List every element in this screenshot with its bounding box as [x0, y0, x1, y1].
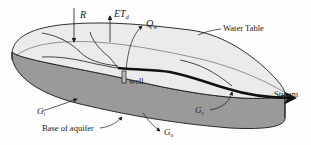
- well-icon: [122, 71, 126, 83]
- recharge-label: R: [79, 9, 86, 20]
- base-of-aquifer-label: Base of aquifer: [42, 123, 94, 133]
- aquifer-diagram: R ETd Qw Water Table well Stream Gi Gs G…: [0, 0, 311, 145]
- diagram-svg: R ETd Qw Water Table well Stream Gi Gs G…: [0, 0, 311, 145]
- pumping-label: Qw: [146, 18, 157, 30]
- water-table-label: Water Table: [223, 23, 264, 33]
- outflow-label: Go: [164, 127, 174, 138]
- inflow-label: Gi: [37, 106, 46, 117]
- well-label: well: [129, 76, 144, 86]
- evapotranspiration-label: ETd: [113, 8, 130, 20]
- stream-label: Stream: [274, 89, 298, 99]
- inflow-leader: [42, 99, 77, 111]
- base-leader: [100, 117, 122, 128]
